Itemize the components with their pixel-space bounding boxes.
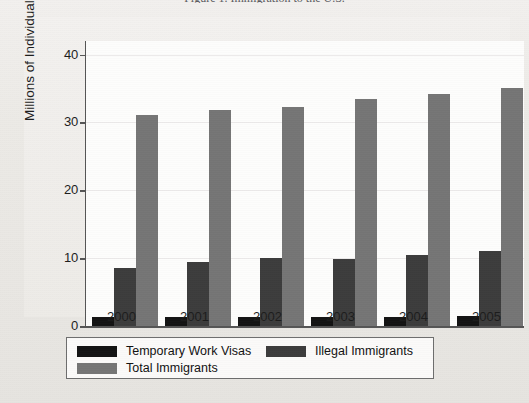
bar-2002-series-2 xyxy=(282,107,304,326)
y-tick-10 xyxy=(80,258,86,260)
y-tick-30 xyxy=(80,122,86,124)
x-axis-label-2002: 2002 xyxy=(238,309,298,324)
y-axis-title: Millions of Individuals xyxy=(22,0,37,121)
legend-swatch-temporary-work-visas xyxy=(77,346,117,357)
x-axis-label-2001: 2001 xyxy=(165,309,225,324)
plot-frame: Millions of Individuals 010203040 200020… xyxy=(24,17,510,317)
y-tick-label-0: 0 xyxy=(56,318,78,333)
y-tick-label-30: 30 xyxy=(56,114,78,129)
x-axis-label-2004: 2004 xyxy=(384,309,444,324)
legend-item-1: Illegal Immigrants xyxy=(266,344,413,358)
y-tick-label-10: 10 xyxy=(56,250,78,265)
y-tick-20 xyxy=(80,190,86,192)
figure-caption: Figure 1. Immigration to the U.S. xyxy=(0,0,529,3)
bar-2003-series-2 xyxy=(355,99,377,326)
bar-2001-series-2 xyxy=(209,110,231,326)
bar-2000-series-2 xyxy=(136,115,158,326)
y-tick-label-40: 40 xyxy=(56,47,78,62)
y-tick-40 xyxy=(80,55,86,57)
x-axis-label-2005: 2005 xyxy=(457,309,517,324)
figure-page: Figure 1. Immigration to the U.S. Millio… xyxy=(0,0,529,403)
x-axis-label-2000: 2000 xyxy=(92,309,152,324)
y-tick-label-20: 20 xyxy=(56,182,78,197)
plot-area: 010203040 xyxy=(85,41,524,326)
legend-label-temporary-work-visas: Temporary Work Visas xyxy=(126,344,251,358)
gridline-40 xyxy=(86,55,524,56)
legend-item-2: Total Immigrants xyxy=(77,361,218,375)
legend-label-illegal-immigrants: Illegal Immigrants xyxy=(315,344,413,358)
legend-swatch-total-immigrants xyxy=(77,363,117,374)
legend-item-0: Temporary Work Visas xyxy=(77,344,251,358)
chart-legend: Temporary Work Visas Illegal Immigrants … xyxy=(66,337,434,379)
legend-label-total-immigrants: Total Immigrants xyxy=(126,361,218,375)
y-tick-0 xyxy=(80,326,86,328)
bar-2004-series-2 xyxy=(428,94,450,326)
x-axis-label-2003: 2003 xyxy=(311,309,371,324)
legend-swatch-illegal-immigrants xyxy=(266,346,306,357)
x-axis-line xyxy=(86,326,524,328)
bar-2005-series-2 xyxy=(501,88,523,326)
